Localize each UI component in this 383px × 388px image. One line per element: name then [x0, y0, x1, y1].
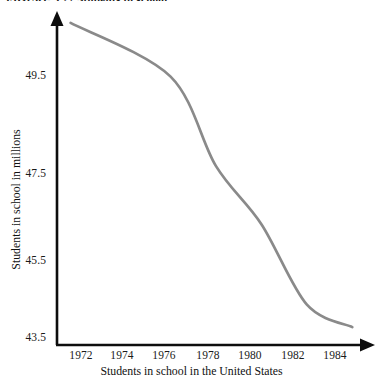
x-tick-label-1980: 1980 [228, 349, 272, 361]
y-axis-title: Students in school in millions [9, 110, 24, 290]
x-tick-label-1982: 1982 [271, 349, 315, 361]
chart-canvas [0, 0, 383, 388]
x-axis-arrowhead [360, 339, 375, 352]
x-tick-label-1984: 1984 [313, 349, 357, 361]
y-tick-label-0: 49.5 [2, 69, 46, 81]
y-tick-label-3: 43.5 [2, 331, 46, 343]
data-series-line [71, 23, 353, 327]
x-tick-label-1978: 1978 [186, 349, 230, 361]
x-axis-title: Students in school in the United States [0, 364, 383, 379]
y-axis-arrowhead [51, 11, 64, 26]
line-chart: FIGURE 3.27 Students in school 49.5 47.5… [0, 0, 383, 388]
x-tick-label-1974: 1974 [100, 349, 144, 361]
x-tick-label-1976: 1976 [142, 349, 186, 361]
y-axis [51, 11, 64, 345]
x-tick-label-1972: 1972 [59, 349, 103, 361]
figure-caption: FIGURE 3.27 Students in school [6, 0, 168, 1]
